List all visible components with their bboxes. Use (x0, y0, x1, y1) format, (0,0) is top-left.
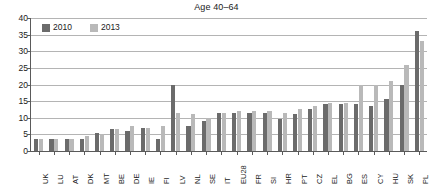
x-tick-mark (404, 152, 405, 155)
chart-title: Age 40–64 (0, 2, 433, 12)
x-tick-label-IT: IT (224, 177, 232, 184)
bar-group (31, 18, 46, 151)
bar-2010-HR (278, 119, 282, 151)
bar-2013-UK (39, 139, 43, 151)
x-tick-mark (191, 152, 192, 155)
bar-group (92, 18, 107, 151)
bar-2013-FI (161, 126, 165, 151)
bars-layer (31, 18, 427, 151)
bar-2010-NL (186, 126, 190, 151)
bar-chart: Age 40–64 0510152025303540 UKLUATDKMTBED… (0, 0, 433, 188)
x-axis: UKLUATDKMTBEDEIEFILVNLSEITEU28FRSIHRPTCZ… (31, 152, 427, 188)
bar-2013-DK (85, 136, 89, 151)
x-tick-mark (343, 152, 344, 155)
x-tick-label-PT: PT (301, 174, 309, 184)
x-tick-mark (69, 152, 70, 155)
x-tick-label-ES: ES (361, 174, 369, 184)
bar-2013-HU (389, 81, 393, 151)
bar-2010-IT (217, 113, 221, 151)
bar-group (46, 18, 61, 151)
bar-2013-CY (374, 85, 378, 152)
x-tick-mark (419, 152, 420, 155)
y-tick-label: 5 (2, 130, 28, 138)
bar-2013-DE (130, 126, 134, 151)
y-axis: 0510152025303540 (0, 0, 28, 188)
bar-2010-UK (34, 139, 38, 151)
bar-2010-ES (354, 104, 358, 151)
x-tick-label-EU28: EU28 (240, 165, 248, 184)
bar-2010-AT (65, 139, 69, 151)
bar-group (77, 18, 92, 151)
y-tick-label: 10 (2, 114, 28, 122)
bar-group (397, 18, 412, 151)
x-tick-label-HR: HR (285, 173, 293, 184)
bar-2010-FR (247, 113, 251, 151)
bar-2010-LU (49, 139, 53, 151)
x-tick-mark (176, 152, 177, 155)
bar-2010-PL (415, 31, 419, 151)
bar-2010-BE (110, 129, 114, 151)
x-tick-label-HU: HU (392, 173, 400, 184)
x-tick-mark (252, 152, 253, 155)
y-tick-label: 35 (2, 31, 28, 39)
bar-2013-CZ (313, 106, 317, 151)
bar-2013-NL (191, 114, 195, 151)
bar-group (412, 18, 427, 151)
bar-2010-EL (323, 104, 327, 151)
x-tick-label-LV: LV (179, 175, 187, 184)
legend-item-2010: 2010 (42, 23, 72, 32)
x-tick-mark (313, 152, 314, 155)
y-tick-label: 40 (2, 14, 28, 22)
bar-2013-SI (267, 111, 271, 151)
y-tick-label: 15 (2, 97, 28, 105)
legend-swatch-icon (42, 24, 50, 32)
bar-2010-IE (141, 128, 145, 151)
x-tick-mark (328, 152, 329, 155)
x-tick-mark (267, 152, 268, 155)
bar-2013-SK (404, 65, 408, 151)
x-tick-mark (39, 152, 40, 155)
bar-2010-FI (156, 139, 160, 151)
legend-label: 2010 (53, 23, 72, 32)
bar-group (290, 18, 305, 151)
bar-group (183, 18, 198, 151)
x-tick-label-SE: SE (209, 174, 217, 184)
bar-2010-CZ (308, 109, 312, 151)
x-tick-label-PL: PL (422, 175, 430, 184)
bar-group (320, 18, 335, 151)
x-tick-label-AT: AT (72, 175, 80, 184)
bar-2013-ES (359, 85, 363, 152)
x-tick-label-SK: SK (407, 174, 415, 184)
x-tick-mark (374, 152, 375, 155)
x-tick-label-CY: CY (377, 174, 385, 184)
bar-2010-LV (171, 85, 175, 152)
x-tick-label-MT: MT (103, 173, 111, 184)
x-tick-mark (54, 152, 55, 155)
bar-2013-AT (69, 139, 73, 151)
bar-group (336, 18, 351, 151)
bar-2013-PL (420, 41, 424, 151)
y-tick-label: 25 (2, 64, 28, 72)
bar-group (107, 18, 122, 151)
bar-group (214, 18, 229, 151)
bar-group (305, 18, 320, 151)
bar-group (138, 18, 153, 151)
x-tick-label-SI: SI (270, 177, 278, 184)
bar-group (199, 18, 214, 151)
x-tick-mark (237, 152, 238, 155)
bar-2013-PT (298, 109, 302, 151)
x-tick-mark (145, 152, 146, 155)
bar-2010-PT (293, 114, 297, 151)
legend-label: 2013 (101, 23, 120, 32)
bar-2013-IE (146, 128, 150, 151)
bar-2013-FR (252, 111, 256, 151)
x-tick-label-LU: LU (57, 174, 65, 184)
bar-2013-LU (54, 139, 58, 151)
bar-group (153, 18, 168, 151)
bar-group (351, 18, 366, 151)
bar-2010-MT (95, 133, 99, 151)
x-tick-label-EL: EL (331, 175, 339, 184)
x-tick-mark (298, 152, 299, 155)
x-tick-label-IE: IE (148, 177, 156, 184)
x-tick-mark (282, 152, 283, 155)
